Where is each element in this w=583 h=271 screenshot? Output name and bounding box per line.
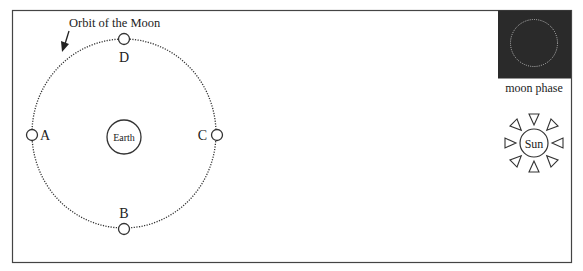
moon-circle-a <box>27 130 38 141</box>
moon-phase-box <box>498 11 571 79</box>
diagram-frame <box>13 11 572 263</box>
moon-circle-d <box>119 34 130 45</box>
moon-phase-label: moon phase <box>505 81 563 95</box>
position-label-a: A <box>40 128 51 143</box>
moon-orbit-diagram: Orbit of the Moon Earth D A C B moon pha… <box>0 0 583 271</box>
orbit-label: Orbit of the Moon <box>69 16 161 30</box>
moon-circle-b <box>119 224 130 235</box>
moon-circle-c <box>212 130 223 141</box>
moon-position-d: D <box>119 34 130 66</box>
earth-label: Earth <box>113 132 135 143</box>
position-label-d: D <box>119 50 129 65</box>
position-label-b: B <box>119 206 128 221</box>
sun-label: Sun <box>525 137 544 151</box>
position-label-c: C <box>198 128 207 143</box>
moon-position-b: B <box>119 206 130 235</box>
